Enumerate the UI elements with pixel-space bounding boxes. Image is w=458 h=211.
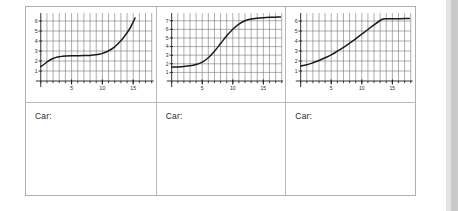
y-tick-label: 2: [165, 61, 168, 67]
y-tick-label: 1: [165, 69, 168, 75]
page-margin-inner: [446, 0, 451, 211]
y-tick-label: 2: [35, 58, 38, 64]
data-curve: [171, 17, 280, 67]
answer-cell-2[interactable]: Car:: [156, 103, 286, 195]
y-tick-label: 3: [295, 48, 298, 54]
chart-row: 51015123456 510151234567 51015123456: [26, 7, 415, 102]
x-tick-label: 10: [100, 85, 106, 91]
data-curve: [301, 19, 410, 67]
chart-cell-3: 51015123456: [285, 7, 415, 102]
y-tick-label: 3: [165, 52, 168, 58]
y-tick-label: 6: [295, 18, 298, 24]
page-margin-band: [446, 0, 458, 211]
chart-2-plot: 510151234567: [165, 13, 283, 91]
x-tick-label: 15: [260, 85, 266, 91]
y-tick-label: 2: [295, 58, 298, 64]
x-tick-label: 5: [330, 85, 333, 91]
y-tick-label: 4: [35, 38, 38, 44]
x-tick-label: 10: [230, 85, 236, 91]
answer-cell-3[interactable]: Car:: [285, 103, 415, 195]
x-tick-label: 5: [200, 85, 203, 91]
chart-1-plot: 51015123456: [35, 13, 154, 91]
line-chart-1: 51015123456: [28, 9, 154, 101]
y-tick-label: 3: [35, 48, 38, 54]
chart-3-plot: 51015123456: [295, 13, 413, 91]
y-tick-label: 4: [295, 38, 298, 44]
chart-cell-2: 510151234567: [156, 7, 286, 102]
y-tick-label: 1: [295, 68, 298, 74]
answer-cell-1[interactable]: Car:: [26, 103, 156, 195]
worksheet-table: 51015123456 510151234567 51015123456 Car…: [25, 6, 416, 196]
answer-label-1: Car:: [35, 112, 156, 121]
y-tick-label: 6: [35, 18, 38, 24]
y-tick-label: 6: [165, 26, 168, 32]
x-tick-label: 5: [70, 85, 73, 91]
y-tick-label: 5: [35, 28, 38, 34]
chart-cell-1: 51015123456: [26, 7, 156, 102]
x-tick-label: 10: [359, 85, 365, 91]
x-tick-label: 15: [130, 85, 136, 91]
answer-label-3: Car:: [295, 112, 415, 121]
answer-label-2: Car:: [166, 112, 286, 121]
y-tick-label: 5: [165, 35, 168, 41]
y-tick-label: 1: [35, 68, 38, 74]
line-chart-3: 51015123456: [288, 9, 413, 101]
y-tick-label: 5: [295, 28, 298, 34]
y-tick-label: 4: [165, 43, 168, 49]
y-tick-label: 7: [165, 18, 168, 24]
line-chart-2: 510151234567: [159, 9, 284, 101]
x-tick-label: 15: [390, 85, 396, 91]
answer-row: Car: Car: Car:: [26, 102, 415, 195]
